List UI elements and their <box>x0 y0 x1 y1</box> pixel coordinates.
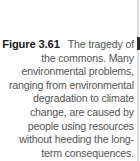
figure-edge-marker <box>137 37 140 50</box>
figure-edge-line <box>137 0 139 161</box>
figure-caption: Figure 3.61 The tragedy of the commons. … <box>2 38 134 160</box>
figure-label: Figure 3.61 <box>2 38 65 50</box>
caption-text: The tragedy of the commons. Many environ… <box>9 38 134 159</box>
